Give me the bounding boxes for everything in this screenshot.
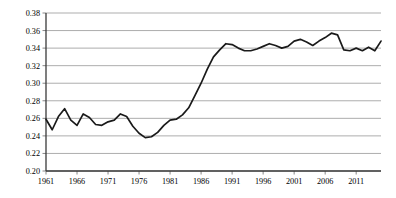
line-chart: 0.200.220.240.260.280.300.320.340.360.38…: [0, 0, 396, 198]
y-tick-label: 0.32: [26, 62, 40, 71]
gridlines: [46, 13, 381, 171]
y-tick-label: 0.26: [26, 114, 40, 123]
chart-canvas: 0.200.220.240.260.280.300.320.340.360.38…: [0, 0, 396, 198]
x-tick-label: 1991: [224, 177, 240, 186]
x-tick-label: 2001: [286, 177, 302, 186]
y-tick-label: 0.22: [26, 149, 40, 158]
x-tick-label: 1986: [193, 177, 209, 186]
y-tick-labels: 0.200.220.240.260.280.300.320.340.360.38: [26, 9, 40, 176]
y-tick-label: 0.20: [26, 167, 40, 176]
x-tick-label: 1961: [38, 177, 54, 186]
x-tick-label: 1981: [162, 177, 178, 186]
x-tick-label: 1966: [69, 177, 85, 186]
y-tick-label: 0.24: [26, 132, 40, 141]
x-tick-label: 1996: [255, 177, 271, 186]
x-tick-label: 1976: [131, 177, 147, 186]
x-tick-label: 1971: [100, 177, 116, 186]
x-tick-labels: 1961196619711976198119861991199620012006…: [38, 177, 364, 186]
x-tick-label: 2011: [348, 177, 364, 186]
y-tick-label: 0.30: [26, 79, 40, 88]
y-tick-label: 0.28: [26, 97, 40, 106]
y-tick-label: 0.36: [26, 27, 40, 36]
y-tick-label: 0.38: [26, 9, 40, 18]
y-tick-label: 0.34: [26, 44, 40, 53]
data-series-line: [46, 33, 381, 137]
x-tick-label: 2006: [317, 177, 333, 186]
